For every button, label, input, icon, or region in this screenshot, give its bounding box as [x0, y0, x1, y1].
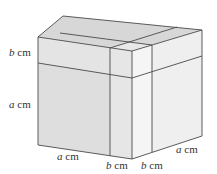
right-face-b-column — [132, 45, 152, 159]
front-face-b-column — [110, 48, 132, 159]
label-bottom-b-right: b cm — [141, 159, 163, 171]
label-bottom-b-front: b cm — [106, 159, 128, 171]
label-right-a: a cm — [176, 143, 198, 155]
label-bottom-a: a cm — [57, 150, 79, 162]
label-left-b: b cm — [9, 46, 31, 58]
cube-diagram: b cm a cm a cm b cm b cm a cm — [0, 0, 217, 174]
label-left-a: a cm — [9, 98, 31, 110]
